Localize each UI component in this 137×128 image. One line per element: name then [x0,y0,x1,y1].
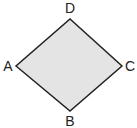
rhombus-diagram: D A C B [0,0,137,128]
vertex-label-c: C [125,58,135,74]
vertex-label-d: D [65,0,75,16]
vertex-label-b: B [65,113,74,128]
rhombus-shape [16,19,122,111]
vertex-label-a: A [3,58,13,74]
